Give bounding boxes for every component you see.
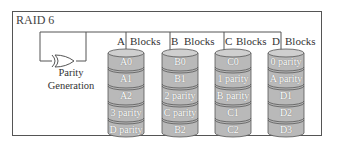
disk-b-block-1: B1 [161,71,199,87]
disk-a-block-1: A1 [107,71,145,87]
disk-a-block-0: A0 [107,54,145,70]
disk-d-block-0: 0 parity [267,54,305,70]
disk-d-block-3: D2 [267,105,305,121]
disk-c-block-3: C1 [214,105,252,121]
disk-b-block-3: C parity [161,105,199,121]
disk-c-block-1: 1 parity [214,71,252,87]
disk-d-block-1: A parity [267,71,305,87]
disk-a-block-3: 3 parity [107,105,145,121]
disk-c-block-4: C2 [214,122,252,138]
disk-b-block-4: B2 [161,122,199,138]
disk-b-block-0: B0 [161,54,199,70]
disk-c-block-2: B parity [214,88,252,104]
disk-a-block-4: D parity [107,122,145,138]
disk-d-block-4: D3 [267,122,305,138]
disk-d-block-2: D1 [267,88,305,104]
disk-a-block-2: A2 [107,88,145,104]
disk-c-block-0: C0 [214,54,252,70]
disk-b-block-2: 2 parity [161,88,199,104]
